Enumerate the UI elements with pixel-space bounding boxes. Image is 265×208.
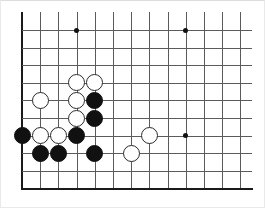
grid-line-horizontal [22, 30, 252, 31]
white-stone-c2-r7[interactable] [32, 127, 49, 144]
grid-line-horizontal [22, 118, 252, 119]
go-board-figure [0, 0, 265, 208]
black-stone-c4-r7[interactable] [68, 127, 85, 144]
white-stone-c5-r4[interactable] [86, 74, 103, 91]
white-stone-c4-r6[interactable] [68, 110, 85, 127]
black-stone-c5-r5[interactable] [86, 92, 103, 109]
white-stone-c2-r5[interactable] [32, 92, 49, 109]
white-stone-c7-r8[interactable] [123, 145, 140, 162]
black-stone-c5-r6[interactable] [86, 110, 103, 127]
star-point-c10-r7 [183, 133, 188, 138]
board-bottom-edge [21, 188, 253, 190]
grid-line-horizontal [22, 100, 252, 101]
white-stone-c4-r5[interactable] [68, 92, 85, 109]
black-stone-c3-r8[interactable] [50, 145, 67, 162]
white-stone-c3-r7[interactable] [50, 127, 67, 144]
white-stone-c4-r4[interactable] [68, 74, 85, 91]
white-stone-c8-r7[interactable] [141, 127, 158, 144]
star-point-c4-top-left [74, 28, 79, 33]
grid-line-horizontal [22, 48, 252, 49]
grid-line-horizontal [22, 171, 252, 172]
black-stone-c2-r8[interactable] [32, 145, 49, 162]
black-stone-c1-r7[interactable] [14, 127, 31, 144]
black-stone-c5-r8[interactable] [86, 145, 103, 162]
grid-line-horizontal [22, 83, 252, 84]
go-board[interactable] [0, 0, 265, 208]
grid-line-horizontal [22, 65, 252, 66]
star-point-c10-top [183, 28, 188, 33]
